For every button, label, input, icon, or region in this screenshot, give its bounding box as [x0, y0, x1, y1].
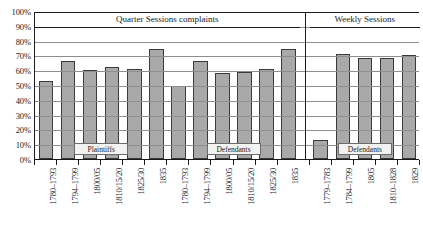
- x-axis-tick-label: 1794–1799: [203, 168, 212, 204]
- bar: [39, 81, 54, 159]
- gridline: [35, 101, 419, 102]
- x-axis-tick: [309, 160, 310, 165]
- x-axis-tick-label: 1810/15/20: [115, 168, 124, 205]
- x-axis: 1780–17931794–17991800/051810/15/201825/…: [34, 160, 419, 241]
- panel-title-rule: [310, 27, 420, 28]
- x-axis-tick-label: 1810–1828: [389, 168, 398, 204]
- y-axis-tick-label: 30%: [16, 111, 31, 120]
- x-axis-tick: [255, 160, 256, 165]
- gridline: [35, 56, 419, 57]
- gridline: [35, 86, 419, 87]
- x-axis-tick-label: 1835: [159, 168, 168, 184]
- y-axis-tick-label: 50%: [16, 82, 31, 91]
- y-axis-tick-label: 10%: [16, 141, 31, 150]
- x-axis-tick: [233, 160, 234, 165]
- panel-divider: [305, 12, 306, 159]
- x-axis-tick: [419, 160, 420, 165]
- x-axis-tick: [331, 160, 332, 165]
- y-axis-tick-label: 90%: [16, 23, 31, 32]
- group-caption: Plaintiffs: [74, 143, 128, 155]
- panel-title: Quarter Sessions complaints: [35, 12, 300, 27]
- y-axis-tick-label: 70%: [16, 52, 31, 61]
- x-axis-tick-label: 1810/15/20: [247, 168, 256, 205]
- y-axis-tick-label: 0%: [20, 156, 31, 165]
- x-axis-tick: [122, 160, 123, 165]
- plot-area: Quarter Sessions complaintsPlaintiffsDef…: [34, 12, 419, 160]
- y-axis-tick-label: 100%: [12, 8, 31, 17]
- y-axis-tick-label: 40%: [16, 97, 31, 106]
- x-axis-tick-label: 1825/30: [269, 168, 278, 194]
- x-axis-tick-label: 1829: [411, 168, 420, 184]
- x-axis-tick: [166, 160, 167, 165]
- x-axis-tick-label: 1805: [367, 168, 376, 184]
- x-axis-tick-label: 1825/30: [137, 168, 146, 194]
- y-axis-tick-label: 20%: [16, 126, 31, 135]
- gridline: [35, 130, 419, 131]
- chart-container: 0%10%20%30%40%50%60%70%80%90%100% Quarte…: [0, 0, 423, 241]
- x-axis-tick-label: 1835: [291, 168, 300, 184]
- panel-title: Weekly Sessions: [310, 12, 420, 27]
- x-axis-tick-label: 1780–1793: [49, 168, 58, 204]
- x-axis-tick: [397, 160, 398, 165]
- x-axis-tick: [78, 160, 79, 165]
- x-axis-tick: [210, 160, 211, 165]
- y-axis-tick-label: 60%: [16, 67, 31, 76]
- x-axis-tick: [353, 160, 354, 165]
- group-caption: Defendants: [338, 143, 392, 155]
- gridline: [35, 71, 419, 72]
- x-axis-tick-label: 1800/05: [225, 168, 234, 194]
- gridline: [35, 42, 419, 43]
- x-axis-tick: [375, 160, 376, 165]
- x-axis-tick: [277, 160, 278, 165]
- group-caption: Defendants: [207, 143, 261, 155]
- x-axis-tick: [34, 160, 35, 165]
- x-axis-tick-label: 1784–1799: [345, 168, 354, 204]
- x-axis-tick: [144, 160, 145, 165]
- x-axis-tick: [188, 160, 189, 165]
- x-axis-tick: [100, 160, 101, 165]
- x-axis-tick-label: 1800/05: [93, 168, 102, 194]
- gridline: [35, 116, 419, 117]
- bar: [313, 140, 328, 159]
- x-axis-tick: [56, 160, 57, 165]
- y-axis-tick-label: 80%: [16, 37, 31, 46]
- bar: [171, 86, 186, 159]
- bar: [149, 49, 164, 159]
- x-axis-tick-label: 1780–1793: [181, 168, 190, 204]
- panel-title-rule: [35, 27, 300, 28]
- x-axis-tick-label: 1794–1799: [71, 168, 80, 204]
- bar: [281, 49, 296, 159]
- y-axis: 0%10%20%30%40%50%60%70%80%90%100%: [0, 0, 34, 170]
- x-axis-tick-label: 1779–1783: [323, 168, 332, 204]
